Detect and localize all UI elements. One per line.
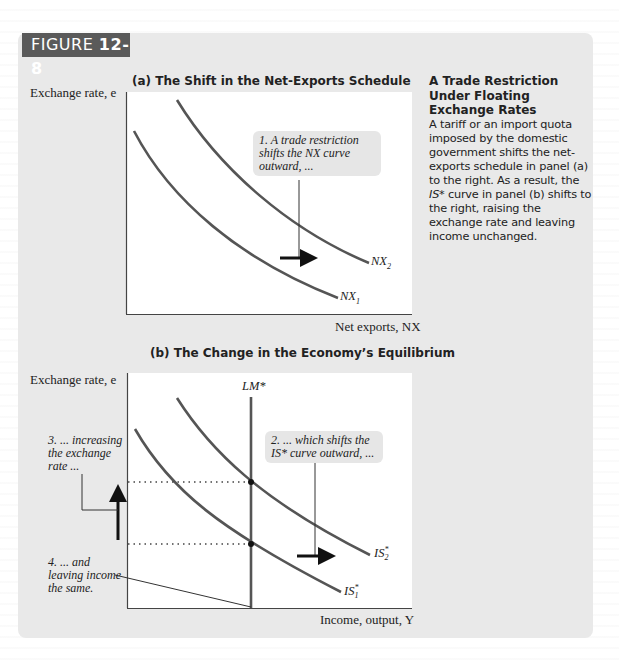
label-is1-main: IS bbox=[344, 584, 354, 598]
note3-line3: rate ... bbox=[48, 460, 122, 473]
label-lm-star: LM* bbox=[242, 380, 266, 393]
label-is2-sub: 2 bbox=[384, 554, 388, 562]
label-nx2-main: NX bbox=[371, 254, 387, 268]
annotation-note2: 2. ... which shifts the IS* curve outwar… bbox=[265, 431, 383, 463]
annotation-note3: 3. ... increasing the exchange rate ... bbox=[48, 434, 122, 473]
panel-b-new-equilibrium-point bbox=[248, 479, 254, 485]
label-is1: IS*1 bbox=[344, 584, 358, 600]
note4-line3: the same. bbox=[48, 582, 121, 595]
label-nx1-sub: 1 bbox=[356, 297, 360, 306]
panel-b-plot-area bbox=[127, 373, 412, 608]
annotation-note1: 1. A trade restriction shifts the NX cur… bbox=[253, 131, 381, 176]
label-nx1-main: NX bbox=[340, 289, 356, 303]
panel-b-old-equilibrium-point bbox=[248, 541, 254, 547]
label-is2: IS*2 bbox=[374, 546, 388, 562]
label-is1-sub: 1 bbox=[354, 592, 358, 600]
label-nx2-sub: 2 bbox=[387, 262, 391, 271]
label-nx1: NX1 bbox=[340, 290, 360, 308]
note1-line3: outward, ... bbox=[259, 160, 375, 173]
label-nx2: NX2 bbox=[371, 255, 391, 273]
panel-b-note3-leader bbox=[82, 474, 118, 510]
annotation-note4: 4. ... and leaving income the same. bbox=[48, 556, 121, 595]
label-is2-main: IS bbox=[374, 546, 384, 560]
note2-line2: IS* curve outward, ... bbox=[271, 447, 377, 460]
